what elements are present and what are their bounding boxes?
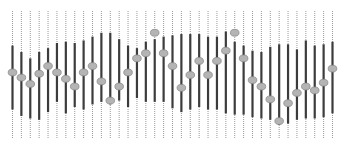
marker-35 (310, 87, 319, 94)
marker-31 (275, 118, 284, 125)
marker-28 (248, 77, 257, 84)
marker-2 (17, 74, 26, 81)
marker-15 (133, 55, 142, 62)
marker-8 (70, 83, 79, 90)
marker-26 (230, 29, 239, 36)
marker-33 (293, 90, 302, 97)
marker-37 (328, 65, 337, 72)
marker-16 (142, 50, 151, 57)
marker-25 (222, 47, 231, 54)
marker-29 (257, 83, 266, 90)
range-bars (13, 31, 333, 124)
marker-27 (239, 55, 248, 62)
marker-20 (177, 84, 186, 91)
marker-21 (186, 72, 195, 79)
marker-3 (26, 81, 35, 88)
marker-17 (150, 29, 159, 36)
marker-19 (168, 63, 177, 70)
marker-18 (159, 50, 168, 57)
marker-23 (204, 72, 213, 79)
marker-13 (115, 83, 124, 90)
marker-1 (8, 69, 17, 76)
marker-5 (44, 63, 53, 70)
marker-34 (302, 83, 311, 90)
marker-22 (195, 58, 204, 65)
marker-30 (266, 96, 275, 103)
marker-12 (106, 97, 115, 104)
marker-32 (284, 100, 293, 107)
marker-4 (35, 70, 44, 77)
marker-10 (88, 63, 97, 70)
marker-6 (53, 69, 62, 76)
marker-9 (79, 69, 88, 76)
range-chart (0, 0, 346, 149)
marker-36 (319, 79, 328, 86)
marker-11 (97, 78, 106, 85)
marker-14 (124, 69, 133, 76)
marker-24 (213, 58, 222, 65)
marker-7 (62, 75, 71, 82)
